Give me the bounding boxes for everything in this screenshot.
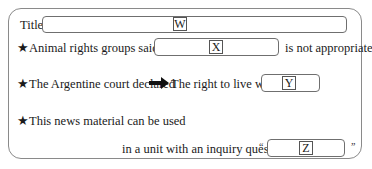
- placeholder-w: W: [173, 17, 187, 31]
- usage-statement: ★This news material can be used: [17, 115, 186, 128]
- star-icon: ★: [17, 77, 29, 91]
- open-quote: “: [259, 142, 263, 152]
- usage-lead: This news material can be used: [29, 114, 186, 128]
- title-label: Title: [20, 19, 43, 32]
- star-icon: ★: [17, 41, 29, 55]
- placeholder-z: Z: [299, 141, 313, 155]
- title-field[interactable]: [42, 16, 347, 33]
- star-icon: ★: [17, 114, 29, 128]
- close-quote: ”: [351, 142, 355, 152]
- animal-rights-tail: is not appropriate: [285, 42, 372, 55]
- placeholder-y: Y: [282, 76, 296, 90]
- right-arrow-icon: [149, 77, 169, 89]
- placeholder-x: X: [209, 40, 223, 54]
